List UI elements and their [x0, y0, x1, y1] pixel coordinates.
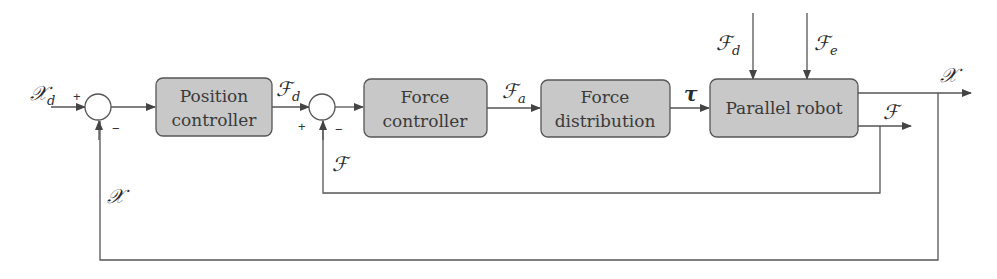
force-distribution-block: Force distribution — [541, 80, 670, 137]
block-label: Parallel robot — [725, 98, 842, 118]
label-torque: τ — [684, 82, 698, 106]
label-force-feedback: ℱ — [332, 152, 351, 176]
sum1-minus: − — [112, 121, 120, 136]
force-controller-block: Force controller — [364, 79, 487, 137]
label-environment-force: ℱe — [814, 31, 838, 58]
label-position-feedback: 𝒳 — [107, 184, 130, 208]
summing-junction-2 — [309, 94, 335, 120]
sum2-minus: − — [335, 122, 343, 137]
summing-junction-1 — [85, 94, 111, 120]
label-output-position: 𝒳 — [940, 63, 963, 87]
block-label: controller — [172, 110, 258, 130]
block-label: controller — [383, 111, 469, 131]
block-label: distribution — [555, 111, 656, 131]
sum1-plus: + — [73, 89, 81, 104]
label-output-force: ℱ — [883, 100, 902, 124]
position-controller-block: Position controller — [156, 78, 272, 136]
label-actuator-force: ℱa — [502, 79, 526, 106]
sum2-plus: + — [298, 119, 306, 134]
parallel-robot-block: Parallel robot — [710, 79, 858, 137]
control-block-diagram: + − + − Position controller Force contro… — [0, 0, 997, 279]
label-desired-force: ℱd — [276, 77, 300, 104]
label-disturbance-force: ℱd — [716, 31, 740, 58]
block-label: Position — [180, 86, 249, 106]
block-label: Force — [581, 87, 630, 107]
block-label: Force — [401, 87, 450, 107]
label-reference-position: 𝒳d — [30, 81, 55, 108]
